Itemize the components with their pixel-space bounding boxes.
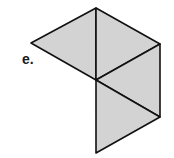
triangle-left-upper [31,8,96,80]
triangles-group [31,8,160,153]
triangle-net-diagram [0,0,174,158]
